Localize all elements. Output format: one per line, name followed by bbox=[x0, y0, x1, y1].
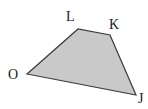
vertex-label-k: K bbox=[109, 18, 119, 32]
vertex-label-j: J bbox=[138, 92, 143, 106]
vertex-label-l: L bbox=[66, 10, 75, 24]
vertex-label-o: O bbox=[8, 68, 18, 82]
quadrilateral-shape bbox=[27, 29, 136, 95]
geometry-figure-canvas: O L K J bbox=[0, 0, 148, 109]
